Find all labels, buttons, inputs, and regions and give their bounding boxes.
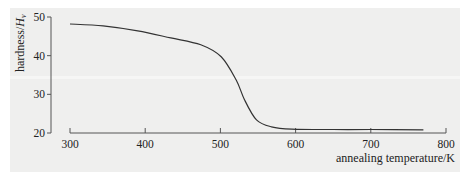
x-tick-label: 800 — [437, 138, 455, 150]
x-tick-label: 500 — [212, 138, 230, 150]
y-tick-label: 30 — [34, 88, 46, 100]
x-tick-label: 400 — [137, 138, 155, 150]
x-axis-title: annealing temperature/K — [336, 151, 455, 165]
y-axis: 20304050 — [34, 11, 52, 139]
y-tick-label: 40 — [34, 50, 46, 62]
x-tick-label: 300 — [61, 138, 79, 150]
x-tick-label: 700 — [362, 138, 380, 150]
y-tick-label: 50 — [34, 11, 46, 23]
y-tick-label: 20 — [34, 127, 46, 139]
y-axis-title: hardness/Hv — [13, 14, 28, 72]
x-axis: 300400500600700800 — [61, 128, 455, 150]
hardness-curve — [70, 24, 423, 130]
chart: 20304050 300400500600700800 annealing te… — [0, 0, 466, 177]
x-tick-label: 600 — [287, 138, 305, 150]
